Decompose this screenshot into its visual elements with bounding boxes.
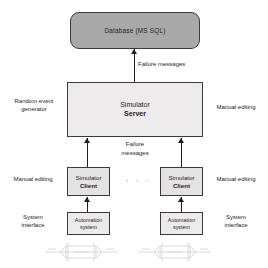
automation-system-node-2: Automation system — [160, 212, 203, 235]
simulator-client-node-1: Simulator Client — [67, 167, 110, 196]
arrow-head — [84, 138, 90, 143]
simulator-client-node-2: Simulator Client — [160, 167, 203, 196]
side-label-system-interface-left: System interface — [2, 214, 64, 229]
arrow-head — [131, 49, 137, 54]
track-schematic-1 — [44, 240, 118, 266]
side-label-manual-editing-server: Manual editing — [205, 104, 267, 112]
server-label-line1: Simulator — [120, 101, 150, 109]
simulator-server-node: Simulator Server — [67, 82, 203, 137]
side-label-manual-editing-client-left: Manual editing — [2, 176, 64, 184]
arrow-head — [178, 138, 184, 143]
edge-label-failure-line1: Failure — [104, 141, 166, 149]
side-label-random-event-generator: Random event generator — [2, 98, 66, 113]
arrow-head — [178, 197, 184, 202]
client-label-line1: Simulator — [168, 174, 194, 181]
automation-label-line2: system — [173, 224, 190, 230]
database-label: Database (MS SQL) — [105, 27, 166, 34]
architecture-diagram: Database (MS SQL) Failure messages Simul… — [0, 0, 268, 268]
edge-label-failure-line2: messages — [104, 150, 166, 158]
database-node: Database (MS SQL) — [70, 12, 200, 49]
side-label-system-interface-right: System interface — [205, 214, 267, 229]
ellipsis-more-clients: · · · — [126, 176, 151, 185]
edge-label-failure-messages-db: Failure messages — [138, 61, 218, 69]
arrow-head — [84, 197, 90, 202]
client-label-line2: Client — [173, 182, 190, 189]
automation-system-node-1: Automation system — [67, 212, 110, 235]
arrow-shaft — [134, 49, 135, 82]
client-label-line1: Simulator — [75, 174, 101, 181]
client-label-line2: Client — [80, 182, 97, 189]
track-schematic-2 — [138, 240, 212, 266]
side-label-manual-editing-client-right: Manual editing — [205, 176, 267, 184]
automation-label-line2: system — [80, 224, 97, 230]
server-label-line2: Server — [124, 110, 146, 118]
